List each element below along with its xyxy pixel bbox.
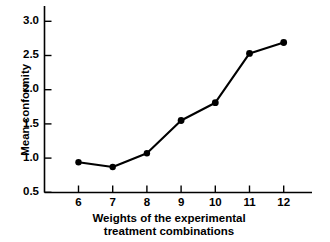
x-tick-label-0: 6: [67, 197, 91, 209]
data-point: [178, 117, 185, 124]
x-tick-label-1: 7: [101, 197, 125, 209]
chart-container: 0.5 1.0 1.5 2.0 2.5 3.0 6 7 8 9 10 11 12…: [0, 0, 330, 242]
data-point: [280, 39, 287, 46]
x-tick-label-2: 8: [135, 197, 159, 209]
x-tick-marks: [79, 186, 284, 193]
x-tick-label-3: 9: [169, 197, 193, 209]
x-tick-label-6: 12: [272, 197, 296, 209]
y-tick-label-5: 3.0: [4, 15, 39, 27]
data-point: [212, 99, 219, 106]
data-point: [110, 164, 116, 170]
x-tick-label-5: 11: [238, 197, 262, 209]
x-axis-title: Weights of the experimental treatment co…: [44, 212, 294, 238]
data-point-markers: [75, 39, 287, 170]
x-axis-title-line-1: Weights of the experimental: [44, 212, 294, 225]
data-point: [75, 159, 81, 165]
x-axis-title-line-2: treatment combinations: [44, 225, 294, 238]
data-line-mean-conformity: [79, 43, 284, 167]
x-tick-label-4: 10: [203, 197, 227, 209]
data-point: [246, 50, 253, 57]
y-axis-title: Mean conformity: [20, 40, 32, 180]
data-point: [144, 150, 150, 156]
y-tick-label-0: 0.5: [4, 186, 39, 198]
y-tick-marks: [45, 21, 52, 192]
